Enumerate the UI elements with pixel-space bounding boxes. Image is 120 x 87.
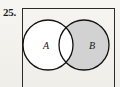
venn-diagram: A B [22, 8, 115, 87]
problem-number: 25. [3, 6, 16, 18]
set-b-label: B [89, 40, 95, 51]
figure-page: 25. A B [0, 0, 120, 87]
set-a-label: A [42, 40, 50, 51]
